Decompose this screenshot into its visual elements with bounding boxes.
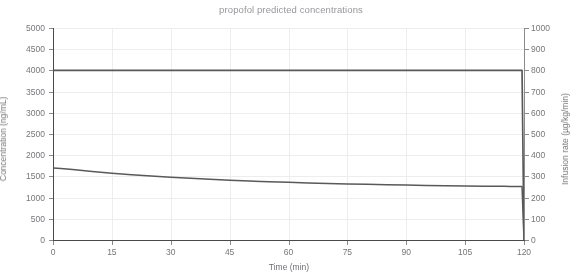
x-axis-tick-label: 120 [517,247,531,257]
x-axis-tick-label: 75 [343,247,352,257]
y-axis-left-tick-label: 3500 [26,87,45,97]
y-axis-left-tick-label: 4500 [26,44,45,54]
y-axis-left-tick-label: 4000 [26,65,45,75]
y-axis-right-tick [525,113,529,114]
y-axis-right-tick [525,134,529,135]
y-axis-right-tick [525,240,529,241]
y-axis-right-tick [525,198,529,199]
y-axis-right-tick-label: 400 [531,150,545,160]
y-axis-right-tick [525,49,529,50]
y-axis-left-tick-label: 5000 [26,23,45,33]
x-axis-tick [289,241,290,245]
y-axis-left-tick [49,176,53,177]
x-axis-tick-label: 0 [51,247,56,257]
y-axis-left-tick [49,155,53,156]
plot-area [53,28,524,240]
y-axis-left-tick [49,92,53,93]
y-axis-right-tick [525,219,529,220]
y-axis-left-tick [49,198,53,199]
y-axis-left-title: Concentration (ng/mL) [0,97,8,182]
chart-title: propofol predicted concentrations [0,4,582,15]
y-axis-left-tick-label: 0 [40,235,45,245]
y-axis-right-tick-label: 500 [531,129,545,139]
y-axis-left-tick-label: 500 [31,214,45,224]
y-axis-right-tick-label: 600 [531,108,545,118]
y-axis-right-tick-label: 200 [531,193,545,203]
y-axis-right-tick-label: 700 [531,87,545,97]
y-axis-left-tick-label: 2000 [26,150,45,160]
y-axis-left-line [53,28,54,240]
y-axis-right-tick [525,70,529,71]
y-axis-right-title: Infusion rate (µg/kg/min) [560,93,570,185]
x-axis-tick-label: 30 [166,247,175,257]
x-axis-tick-label: 90 [402,247,411,257]
y-axis-right-tick [525,176,529,177]
x-axis-title: Time (min) [269,262,309,272]
y-axis-left-tick [49,70,53,71]
x-axis-tick-label: 15 [107,247,116,257]
y-axis-left-tick [49,49,53,50]
y-axis-right-tick-label: 1000 [531,23,550,33]
x-axis-tick [230,241,231,245]
x-axis-tick [53,241,54,245]
y-axis-right-tick [525,28,529,29]
y-axis-left-tick-label: 3000 [26,108,45,118]
chart-container: propofol predicted concentrations Concen… [0,0,582,280]
y-axis-right-tick-label: 800 [531,65,545,75]
x-axis-tick [112,241,113,245]
x-axis-tick [347,241,348,245]
series-lines [53,28,524,240]
x-axis-tick [171,241,172,245]
series-line [53,168,524,240]
y-axis-left-tick-label: 2500 [26,129,45,139]
x-axis-tick-label: 60 [284,247,293,257]
y-axis-right-tick-label: 100 [531,214,545,224]
x-axis-tick [524,241,525,245]
y-axis-right-tick-label: 900 [531,44,545,54]
y-axis-right-tick-label: 300 [531,171,545,181]
x-axis-tick [406,241,407,245]
x-axis-tick [465,241,466,245]
y-axis-right-tick [525,155,529,156]
x-axis-tick-label: 45 [225,247,234,257]
y-axis-right-tick-label: 0 [531,235,536,245]
y-axis-left-tick [49,113,53,114]
y-axis-left-tick-label: 1000 [26,193,45,203]
series-line [53,70,524,240]
y-axis-left-tick [49,134,53,135]
y-axis-left-tick [49,219,53,220]
y-axis-left-tick-label: 1500 [26,171,45,181]
y-axis-right-tick [525,92,529,93]
y-axis-left-tick [49,28,53,29]
x-axis-tick-label: 105 [458,247,472,257]
